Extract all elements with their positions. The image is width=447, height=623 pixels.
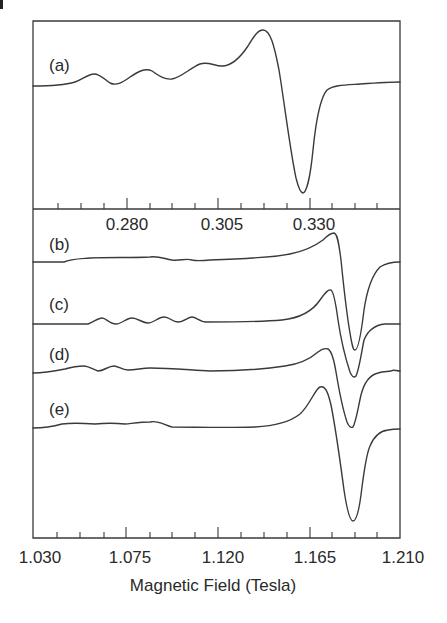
trace-c — [33, 290, 400, 377]
trace-b — [33, 233, 400, 350]
x-axis-title: Magnetic Field (Tesla) — [130, 576, 296, 595]
trace-e — [33, 387, 400, 521]
top-panel-frame — [33, 21, 400, 209]
bottom-tick-label: 1.210 — [382, 548, 425, 567]
bottom-axis-ticks — [57, 527, 377, 538]
top-tick-label: 0.280 — [106, 215, 149, 234]
spectra-traces — [33, 30, 400, 521]
trace-label-a: (a) — [49, 56, 70, 75]
trace-label-b: (b) — [49, 235, 70, 254]
bottom-tick-label: 1.120 — [202, 548, 245, 567]
bottom-tick-labels: 1.030 1.075 1.120 1.165 1.210 — [19, 548, 425, 567]
trace-labels: (a) (b) (c) (d) (e) — [49, 56, 70, 419]
bottom-tick-label: 1.075 — [109, 548, 152, 567]
top-tick-label: 0.330 — [293, 215, 336, 234]
top-tick-labels: 0.280 0.305 0.330 — [106, 215, 336, 234]
top-axis-ticks — [58, 198, 377, 209]
trace-label-c: (c) — [49, 295, 69, 314]
trace-label-d: (d) — [49, 345, 70, 364]
epr-spectra-figure: 0.280 0.305 0.330 1.030 1.075 1.120 1.16… — [0, 0, 447, 623]
trace-a — [33, 30, 400, 193]
top-tick-label: 0.305 — [201, 215, 244, 234]
bottom-tick-label: 1.030 — [19, 548, 62, 567]
bottom-tick-label: 1.165 — [294, 548, 337, 567]
top-panel — [33, 21, 400, 209]
trace-label-e: (e) — [49, 400, 70, 419]
trace-d — [33, 349, 400, 428]
